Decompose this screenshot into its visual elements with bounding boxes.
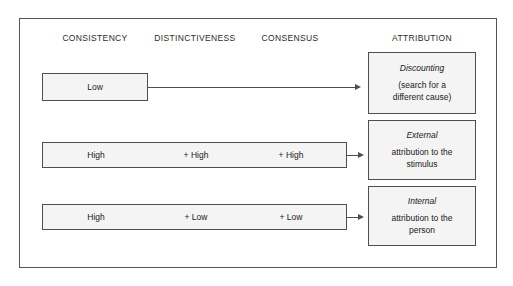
attribution-box-internal: Internal attribution to theperson — [368, 186, 476, 246]
arrow-right-icon-row2 — [358, 152, 364, 158]
attribution-detail-external: attribution to thestimulus — [392, 147, 453, 170]
condition-box-row1: Low — [42, 73, 148, 101]
condition-box-row3: High + Low + Low — [42, 204, 347, 230]
attribution-detail-discounting: (search for adifferent cause) — [393, 80, 451, 103]
column-header-attribution: ATTRIBUTION — [368, 33, 476, 43]
attribution-title-external: External — [406, 130, 437, 141]
condition-cell-consistency-row3: High — [43, 205, 149, 229]
condition-cell-consensus-row2: + High — [247, 143, 335, 167]
condition-cell-consistency-row2: High — [43, 143, 149, 167]
arrow-right-icon-row1 — [355, 84, 361, 90]
column-header-distinctiveness: DISTINCTIVENESS — [146, 33, 244, 43]
condition-cell-consistency-row1: Low — [43, 74, 147, 100]
column-header-consensus: CONSENSUS — [246, 33, 334, 43]
attribution-title-internal: Internal — [408, 196, 436, 207]
attribution-detail-internal: attribution to theperson — [392, 213, 453, 236]
condition-cell-distinctiveness-row2: + High — [147, 143, 245, 167]
condition-box-row2: High + High + High — [42, 142, 347, 168]
column-header-consistency: CONSISTENCY — [42, 33, 148, 43]
arrow-right-icon-row3 — [358, 214, 364, 220]
condition-cell-distinctiveness-row3: + Low — [147, 205, 245, 229]
attribution-box-discounting: Discounting (search for adifferent cause… — [368, 52, 476, 114]
arrow-line-row1 — [148, 87, 358, 88]
attribution-box-external: External attribution to thestimulus — [368, 120, 476, 180]
attribution-theory-diagram: CONSISTENCY DISTINCTIVENESS CONSENSUS AT… — [0, 0, 513, 286]
attribution-title-discounting: Discounting — [400, 63, 444, 74]
condition-cell-consensus-row3: + Low — [247, 205, 335, 229]
